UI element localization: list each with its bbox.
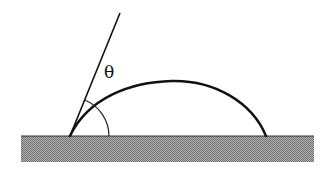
diagram-canvas xyxy=(0,0,330,176)
theta-label: θ xyxy=(104,64,114,81)
substrate xyxy=(21,136,314,162)
angle-arc xyxy=(85,100,109,136)
droplet-profile xyxy=(70,81,266,136)
contact-angle-diagram: θ xyxy=(0,0,330,176)
